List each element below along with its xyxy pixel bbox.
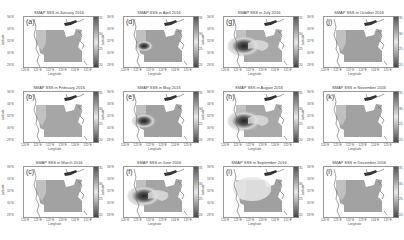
y-tick-label: 28°N: [7, 213, 14, 217]
colorbar-tick: 25: [299, 122, 303, 126]
map-panel: SMAP SSS in September 2016(i)3530252036°…: [204, 160, 304, 236]
panel-title: SMAP SSS in February 2016: [24, 85, 94, 90]
x-tick-label: 121°E: [334, 218, 342, 222]
x-tick-label: 124°E: [371, 143, 379, 147]
x-tick-label: 120°E: [321, 218, 329, 222]
panel-title: SMAP SSS in September 2016: [224, 160, 294, 165]
colorbar-tick: 35: [199, 16, 203, 20]
map-panel: SMAP SSS in April 2016(d)3530252036°N34°…: [104, 10, 204, 86]
x-axis-label: Longitude: [148, 222, 161, 226]
x-tick-label: 121°E: [134, 68, 142, 72]
panel-title: SMAP SSS in March 2016: [24, 160, 94, 165]
y-tick-label: 32°N: [307, 189, 314, 193]
colorbar-tick: 30: [399, 107, 403, 111]
y-tick-label: 32°N: [107, 114, 114, 118]
salinity-field: [124, 92, 193, 142]
colorbar: [193, 16, 199, 68]
colorbar: [293, 166, 299, 218]
y-tick-label: 30°N: [207, 126, 214, 130]
map-panel: SMAP SSS in August 2016(h)3530252036°N34…: [204, 85, 304, 161]
panel-title: SMAP SSS in August 2016: [224, 85, 294, 90]
y-tick-label: 36°N: [107, 15, 114, 19]
colorbar-tick: 35: [99, 91, 103, 95]
panel-title: SMAP SSS in April 2016: [124, 10, 194, 15]
x-tick-label: 120°E: [221, 218, 229, 222]
y-tick-label: 34°N: [207, 177, 214, 181]
salinity-field: [224, 167, 293, 217]
x-tick-label: 125°E: [284, 68, 292, 72]
panel-title: SMAP SSS in June 2016: [124, 160, 194, 165]
map-frame: (h): [223, 91, 294, 143]
colorbar-tick: 35: [99, 166, 103, 170]
y-tick-label: 30°N: [7, 201, 14, 205]
y-tick-label: 36°N: [107, 90, 114, 94]
colorbar: [93, 16, 99, 68]
colorbar-tick: 30: [399, 32, 403, 36]
y-tick-label: 28°N: [207, 138, 214, 142]
x-tick-label: 124°E: [271, 143, 279, 147]
y-tick-label: 28°N: [7, 138, 14, 142]
y-tick-label: 32°N: [207, 114, 214, 118]
colorbar-tick: 20: [399, 213, 403, 217]
x-tick-label: 125°E: [384, 68, 392, 72]
x-axis-label: Longitude: [348, 72, 361, 76]
salinity-field: [24, 167, 93, 217]
map-frame: (i): [223, 166, 294, 218]
x-tick-label: 125°E: [384, 143, 392, 147]
colorbar-tick: 20: [199, 213, 203, 217]
x-tick-label: 124°E: [171, 218, 179, 222]
y-tick-label: 36°N: [307, 90, 314, 94]
y-tick-label: 32°N: [7, 39, 14, 43]
x-tick-label: 121°E: [234, 68, 242, 72]
y-tick-label: 30°N: [207, 51, 214, 55]
y-axis-label: Latitude: [201, 185, 205, 196]
x-tick-label: 120°E: [221, 143, 229, 147]
map-frame: (l): [323, 166, 394, 218]
x-tick-label: 120°E: [121, 143, 129, 147]
salinity-field: [324, 167, 393, 217]
y-tick-label: 36°N: [307, 165, 314, 169]
x-tick-label: 121°E: [234, 218, 242, 222]
map-panel: SMAP SSS in January 2016(a)3530252036°N3…: [4, 10, 104, 86]
colorbar-tick: 25: [199, 122, 203, 126]
y-tick-label: 34°N: [307, 177, 314, 181]
colorbar-tick: 20: [199, 138, 203, 142]
x-tick-label: 124°E: [71, 68, 79, 72]
x-tick-label: 120°E: [321, 68, 329, 72]
map-frame: (g): [223, 16, 294, 68]
y-axis-label: Latitude: [201, 110, 205, 121]
colorbar-tick: 25: [199, 197, 203, 201]
colorbar: [393, 16, 399, 68]
y-tick-label: 32°N: [307, 114, 314, 118]
y-tick-label: 30°N: [107, 51, 114, 55]
y-tick-label: 32°N: [7, 114, 14, 118]
y-tick-label: 30°N: [307, 201, 314, 205]
y-tick-label: 34°N: [307, 102, 314, 106]
y-tick-label: 36°N: [107, 165, 114, 169]
y-tick-label: 32°N: [307, 39, 314, 43]
y-tick-label: 28°N: [207, 213, 214, 217]
x-axis-label: Longitude: [248, 147, 261, 151]
colorbar: [93, 91, 99, 143]
x-tick-label: 121°E: [34, 143, 42, 147]
colorbar-tick: 25: [199, 47, 203, 51]
map-frame: (k): [323, 91, 394, 143]
y-tick-label: 28°N: [107, 213, 114, 217]
x-axis-label: Longitude: [48, 72, 61, 76]
x-tick-label: 125°E: [184, 68, 192, 72]
y-axis-label: Latitude: [101, 185, 105, 196]
y-axis-label: Latitude: [1, 35, 5, 46]
map-panel: SMAP SSS in July 2016(g)3530252036°N34°N…: [204, 10, 304, 86]
salinity-field: [224, 17, 293, 67]
map-panel: SMAP SSS in June 2016(f)3530252036°N34°N…: [104, 160, 204, 236]
y-tick-label: 28°N: [107, 138, 114, 142]
y-tick-label: 34°N: [307, 27, 314, 31]
colorbar-tick: 20: [399, 138, 403, 142]
y-axis-label: Latitude: [301, 185, 305, 196]
colorbar-tick: 35: [399, 16, 403, 20]
y-tick-label: 34°N: [107, 27, 114, 31]
panel-title: SMAP SSS in December 2016: [324, 160, 394, 165]
x-axis-label: Longitude: [248, 222, 261, 226]
x-tick-label: 124°E: [271, 218, 279, 222]
x-tick-label: 120°E: [221, 68, 229, 72]
